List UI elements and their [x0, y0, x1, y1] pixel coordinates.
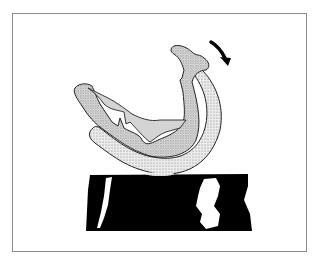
support-block [86, 174, 252, 231]
diagram-canvas [0, 0, 320, 259]
rotation-arrow-icon [211, 42, 231, 66]
contact-point [146, 172, 174, 176]
